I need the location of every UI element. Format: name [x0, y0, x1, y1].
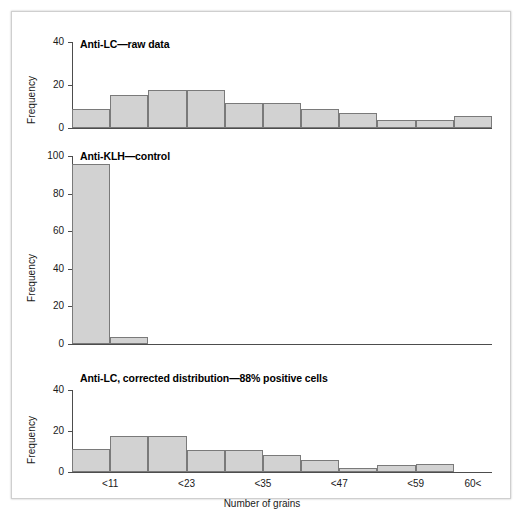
y-tick-label-0-0: 0 — [34, 123, 64, 133]
histogram-bar — [225, 450, 263, 472]
y-axis-label-1: Frequency — [26, 254, 37, 302]
y-tick-label-1-4: 80 — [34, 189, 64, 199]
histogram-bar — [301, 109, 339, 128]
x-tick-label-1: <23 — [178, 478, 195, 489]
histogram-bar — [263, 103, 301, 128]
histogram-bar — [72, 449, 110, 472]
x-axis-label: Number of grains — [12, 498, 512, 509]
y-tick-label-1-1: 20 — [34, 301, 64, 311]
x-tick-label-5: 60< — [464, 478, 481, 489]
y-tick-label-2-1: 20 — [34, 426, 64, 436]
histogram-bar — [454, 116, 492, 128]
histogram-bar — [225, 103, 263, 128]
histogram-bar — [187, 90, 225, 128]
y-tick-label-2-2: 40 — [34, 385, 64, 395]
histogram-bar — [110, 337, 148, 344]
x-axis-line-0 — [72, 128, 492, 129]
x-axis-line-2 — [72, 472, 492, 473]
histogram-bar — [339, 113, 377, 128]
x-axis-line-1 — [72, 344, 492, 345]
y-tick-label-1-5: 100 — [34, 151, 64, 161]
histogram-bar — [301, 460, 339, 472]
y-tick-2-2 — [68, 390, 72, 391]
x-tick-label-3: <47 — [331, 478, 348, 489]
y-tick-0-1 — [68, 85, 72, 86]
y-tick-2-0 — [68, 472, 72, 473]
y-tick-label-0-2: 40 — [34, 37, 64, 47]
y-tick-label-2-0: 0 — [34, 467, 64, 477]
y-tick-label-0-1: 20 — [34, 80, 64, 90]
x-tick-label-4: <59 — [407, 478, 424, 489]
histogram-bar — [72, 109, 110, 128]
figure-frame: Frequency Anti-LC—raw data 02040 Frequen… — [11, 11, 511, 499]
plot-area-1: 020406080100 — [72, 156, 492, 344]
histogram-bar — [187, 450, 225, 472]
y-axis-label-2: Frequency — [26, 416, 37, 464]
histogram-bar — [110, 436, 148, 472]
histogram-bar — [377, 465, 415, 472]
plot-area-2: 02040<11<23<35<47<5960< — [72, 390, 492, 472]
histogram-bar — [72, 164, 110, 344]
y-tick-label-1-3: 60 — [34, 226, 64, 236]
histogram-bar — [110, 95, 148, 128]
histogram-bar — [148, 436, 186, 472]
y-tick-label-1-2: 40 — [34, 264, 64, 274]
histogram-bar — [148, 90, 186, 128]
plot-area-0: 02040 — [72, 42, 492, 128]
chart-panel-corrected: Frequency Anti-LC, corrected distributio… — [12, 364, 512, 492]
y-tick-0-0 — [68, 128, 72, 129]
histogram-bar — [416, 464, 454, 472]
x-tick-label-0: <11 — [102, 478, 118, 489]
y-tick-label-1-0: 0 — [34, 339, 64, 349]
chart-title-2: Anti-LC, corrected distribution—88% posi… — [80, 372, 328, 384]
histogram-bar — [416, 120, 454, 128]
y-tick-1-5 — [68, 156, 72, 157]
histogram-bar — [339, 468, 377, 472]
x-tick-label-2: <35 — [254, 478, 271, 489]
chart-panel-raw-data: Frequency Anti-LC—raw data 02040 — [12, 20, 512, 142]
histogram-bar — [377, 120, 415, 128]
y-tick-0-2 — [68, 42, 72, 43]
chart-panel-control: Frequency Anti-KLH—control 020406080100 — [12, 142, 512, 364]
y-tick-2-1 — [68, 431, 72, 432]
histogram-bar — [263, 455, 301, 472]
y-tick-1-0 — [68, 344, 72, 345]
